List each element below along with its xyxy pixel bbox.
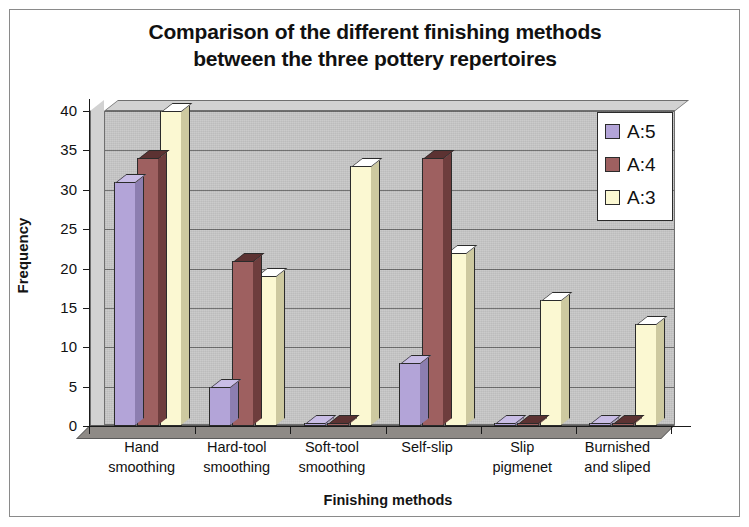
y-tick-35 <box>83 150 90 151</box>
y-tick-label-10: 10 <box>33 338 77 355</box>
x-category-label-3: Soft-toolsmoothing <box>284 437 379 477</box>
gridline-40 <box>105 111 674 112</box>
y-axis-title: Frequency <box>14 171 31 341</box>
x-tick-2 <box>290 426 291 434</box>
legend-label: A:3 <box>627 188 656 207</box>
x-category-label-line: Burnished <box>570 437 665 457</box>
gridline-10 <box>105 347 674 348</box>
bar-side-face <box>181 105 190 425</box>
x-category-label-line: smoothing <box>284 457 379 477</box>
bar-A4-5 <box>517 423 539 426</box>
legend-entry-A3[interactable]: A:3 <box>605 188 656 207</box>
x-category-label-line: Soft-tool <box>284 437 379 457</box>
chart-title-line-2: between the three pottery repertoires <box>40 45 710 72</box>
x-category-label-line: smoothing <box>189 457 284 477</box>
bar-side-face <box>230 381 239 425</box>
gridline-30 <box>105 190 674 191</box>
chart-legend: A:5A:4A:3 <box>597 112 673 221</box>
plot-wall-top <box>104 100 689 111</box>
x-category-label-2: Hard-toolsmoothing <box>189 437 284 477</box>
chart-figure: Comparison of the different finishing me… <box>0 0 749 527</box>
x-tick-3 <box>386 426 387 434</box>
y-tick-20 <box>83 269 90 270</box>
bar-A3-6 <box>635 324 657 426</box>
chart-title: Comparison of the different finishing me… <box>40 18 710 72</box>
x-category-label-6: Burnishedand sliped <box>570 437 665 477</box>
y-tick-label-0: 0 <box>33 417 77 434</box>
y-tick-label-5: 5 <box>33 378 77 395</box>
y-tick-label-15: 15 <box>33 299 77 316</box>
bar-A5-2 <box>209 387 231 426</box>
gridline-35 <box>105 150 674 151</box>
bar-side-face <box>371 160 380 425</box>
bar-A5-6 <box>589 423 611 426</box>
x-category-label-line: Self-slip <box>380 437 475 457</box>
y-tick-5 <box>83 387 90 388</box>
bar-A4-3 <box>327 423 349 426</box>
x-category-label-line: and sliped <box>570 457 665 477</box>
y-axis-line <box>89 99 90 427</box>
bar-side-face <box>158 152 167 425</box>
y-tick-10 <box>83 347 90 348</box>
y-tick-label-25: 25 <box>33 220 77 237</box>
y-tick-30 <box>83 190 90 191</box>
bar-side-face <box>466 247 475 425</box>
y-tick-25 <box>83 229 90 230</box>
plot-wall-left <box>90 100 104 436</box>
x-category-label-5: Slippigmenet <box>475 437 570 477</box>
gridline-15 <box>105 308 674 309</box>
x-axis-line <box>89 426 691 427</box>
bar-A4-6 <box>612 423 634 426</box>
bar-side-face <box>443 152 452 425</box>
x-tick-6 <box>671 426 672 434</box>
legend-entry-A4[interactable]: A:4 <box>605 155 656 174</box>
y-tick-label-30: 30 <box>33 181 77 198</box>
x-tick-0 <box>89 426 90 434</box>
x-tick-1 <box>195 426 196 434</box>
x-category-label-line: Slip <box>475 437 570 457</box>
x-category-label-line: Hand <box>94 437 189 457</box>
x-category-label-line: smoothing <box>94 457 189 477</box>
bar-side-face <box>420 357 429 425</box>
x-category-label-line: pigmenet <box>475 457 570 477</box>
gridline-5 <box>105 387 674 388</box>
bar-side-face <box>561 294 570 425</box>
legend-swatch-icon <box>605 190 620 205</box>
bar-A5-4 <box>399 363 421 426</box>
y-tick-label-40: 40 <box>33 102 77 119</box>
x-axis-title: Finishing methods <box>108 492 668 508</box>
x-category-label-line: Hard-tool <box>189 437 284 457</box>
bar-side-face <box>253 255 262 425</box>
bar-side-face <box>276 270 285 425</box>
legend-label: A:4 <box>627 155 656 174</box>
bar-A3-3 <box>350 166 372 426</box>
bar-A5-5 <box>494 423 516 426</box>
x-category-label-4: Self-slip <box>380 437 475 457</box>
bar-side-face <box>656 318 665 425</box>
bar-A5-1 <box>114 182 136 426</box>
gridline-20 <box>105 269 674 270</box>
legend-label: A:5 <box>627 122 656 141</box>
legend-swatch-icon <box>605 124 620 139</box>
y-tick-label-20: 20 <box>33 260 77 277</box>
x-category-label-1: Handsmoothing <box>94 437 189 477</box>
legend-entry-A5[interactable]: A:5 <box>605 122 656 141</box>
bar-side-face <box>135 176 144 425</box>
legend-swatch-icon <box>605 157 620 172</box>
y-tick-40 <box>83 111 90 112</box>
bar-A5-3 <box>304 423 326 426</box>
chart-title-line-1: Comparison of the different finishing me… <box>40 18 710 45</box>
x-tick-5 <box>576 426 577 434</box>
y-tick-15 <box>83 308 90 309</box>
x-tick-4 <box>481 426 482 434</box>
bar-A3-5 <box>540 300 562 426</box>
gridline-25 <box>105 229 674 230</box>
y-tick-label-35: 35 <box>33 141 77 158</box>
